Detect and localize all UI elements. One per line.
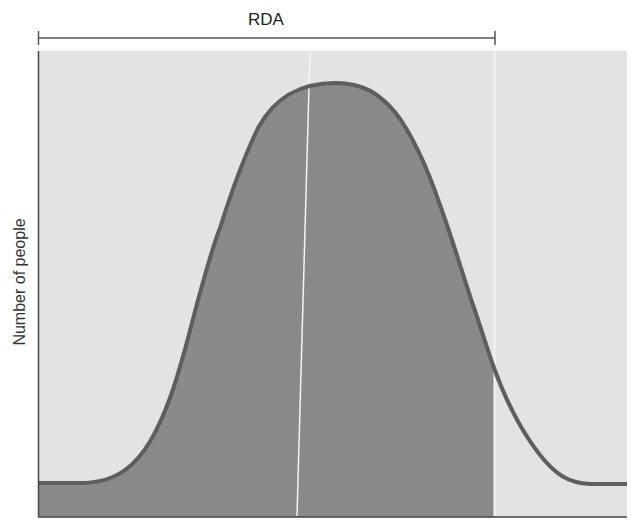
bell-curve-chart bbox=[0, 0, 631, 523]
y-axis-label: Number of people bbox=[11, 218, 29, 345]
rda-label: RDA bbox=[226, 10, 306, 30]
rda-bracket bbox=[39, 31, 496, 45]
